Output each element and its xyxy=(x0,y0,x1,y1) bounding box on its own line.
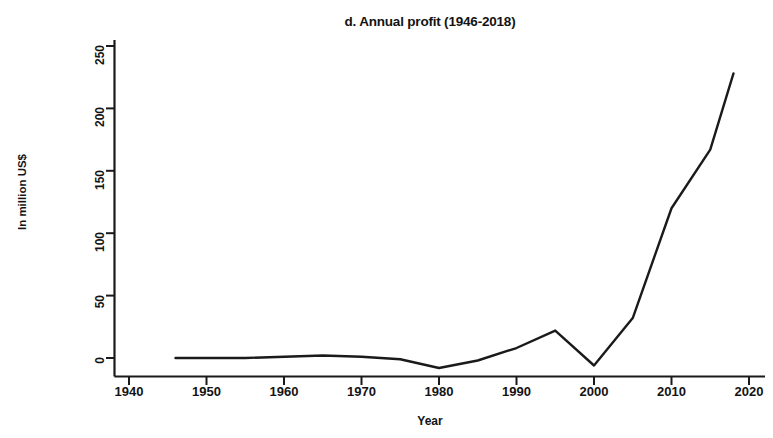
x-tick-label: 1940 xyxy=(101,384,157,399)
x-tick-label: 2020 xyxy=(721,384,773,399)
y-tick-label: 50 xyxy=(93,295,107,335)
y-tick-label: 250 xyxy=(93,45,107,85)
x-tick-label: 1990 xyxy=(489,384,545,399)
x-tick-label: 1950 xyxy=(179,384,235,399)
profit-line-series xyxy=(176,73,734,368)
plot-area xyxy=(0,0,773,438)
y-tick-label: 150 xyxy=(93,170,107,210)
x-tick-label: 1980 xyxy=(411,384,467,399)
y-tick-label: 100 xyxy=(93,232,107,272)
x-tick-label: 1960 xyxy=(256,384,312,399)
chart-figure: d. Annual profit (1946-2018) In million … xyxy=(0,0,773,438)
y-tick-label: 200 xyxy=(93,107,107,147)
x-tick-label: 1970 xyxy=(334,384,390,399)
x-tick-label: 2010 xyxy=(644,384,700,399)
y-axis-ticks xyxy=(106,46,115,358)
axis-lines xyxy=(115,40,766,377)
x-tick-label: 2000 xyxy=(566,384,622,399)
